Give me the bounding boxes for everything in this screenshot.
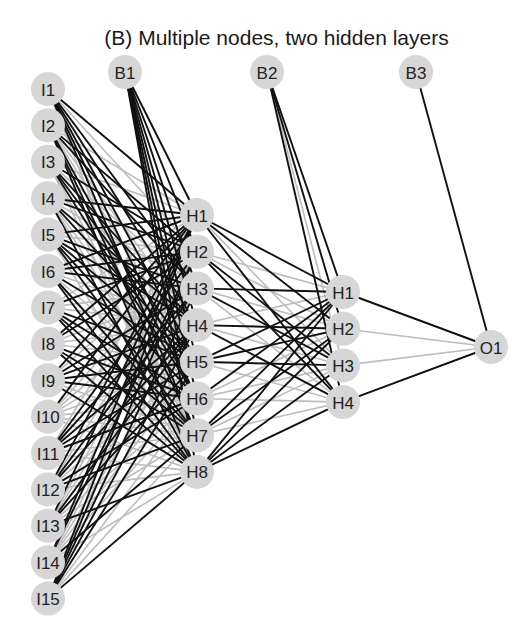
node-label: I12 <box>36 481 60 500</box>
bias-node-b2: B2 <box>250 55 284 89</box>
input-node-i9: I9 <box>31 363 65 397</box>
node-label: B1 <box>115 64 136 83</box>
node-label: I8 <box>41 335 55 354</box>
node-label: B2 <box>257 64 278 83</box>
input-node-i5: I5 <box>31 218 65 252</box>
connection-edges <box>48 72 491 599</box>
hidden1-node-h3: H3 <box>180 271 214 305</box>
edge-hidden1-hidden2 <box>197 329 343 472</box>
hidden1-node-h6: H6 <box>180 382 214 416</box>
node-label: I4 <box>41 190 55 209</box>
input-node-i7: I7 <box>31 290 65 324</box>
node-label: H1 <box>332 284 354 303</box>
node-label: I9 <box>41 372 55 391</box>
edge-hidden2-output <box>343 347 491 402</box>
hidden1-node-h5: H5 <box>180 345 214 379</box>
input-node-i2: I2 <box>31 108 65 142</box>
node-label: I6 <box>41 263 55 282</box>
node-label: H7 <box>186 427 208 446</box>
node-label: I14 <box>36 554 60 573</box>
input-node-i11: I11 <box>31 436 65 470</box>
edge-bias-b3 <box>416 72 491 347</box>
node-label: H1 <box>186 207 208 226</box>
node-label: I7 <box>41 299 55 318</box>
node-label: O1 <box>480 339 503 358</box>
node-label: H2 <box>186 243 208 262</box>
edge-hidden1-hidden2 <box>197 215 343 329</box>
input-node-i6: I6 <box>31 254 65 288</box>
neural-network-diagram: I1I2I3I4I5I6I7I8I9I10I11I12I13I14I15H1H2… <box>0 0 529 639</box>
edge-hidden1-hidden2 <box>197 288 343 292</box>
hidden2-node-h3: H3 <box>326 348 360 382</box>
node-label: I3 <box>41 153 55 172</box>
input-node-i3: I3 <box>31 145 65 179</box>
hidden1-node-h7: H7 <box>180 418 214 452</box>
network-nodes: I1I2I3I4I5I6I7I8I9I10I11I12I13I14I15H1H2… <box>31 55 508 616</box>
input-node-i14: I14 <box>31 545 65 579</box>
node-label: H5 <box>186 353 208 372</box>
node-label: H8 <box>186 463 208 482</box>
input-node-i8: I8 <box>31 327 65 361</box>
input-node-i10: I10 <box>31 400 65 434</box>
node-label: H2 <box>332 320 354 339</box>
input-node-i4: I4 <box>31 181 65 215</box>
node-label: H6 <box>186 390 208 409</box>
input-node-i15: I15 <box>31 582 65 616</box>
edge-hidden2-output <box>343 292 491 347</box>
edge-hidden1-hidden2 <box>197 292 343 435</box>
node-label: I2 <box>41 117 55 136</box>
bias-node-b3: B3 <box>399 55 433 89</box>
hidden2-node-h2: H2 <box>326 312 360 346</box>
hidden1-node-h1: H1 <box>180 198 214 232</box>
hidden1-node-h8: H8 <box>180 455 214 489</box>
hidden1-node-h2: H2 <box>180 235 214 269</box>
hidden2-node-h1: H1 <box>326 275 360 309</box>
node-label: I10 <box>36 408 60 427</box>
hidden2-node-h4: H4 <box>326 385 360 419</box>
input-node-i1: I1 <box>31 72 65 106</box>
node-label: H4 <box>332 394 354 413</box>
node-label: H3 <box>186 280 208 299</box>
hidden1-node-h4: H4 <box>180 308 214 342</box>
node-label: I11 <box>37 445 59 464</box>
node-label: I5 <box>41 226 55 245</box>
input-node-i12: I12 <box>31 472 65 506</box>
node-label: I13 <box>36 517 60 536</box>
bias-node-b1: B1 <box>108 55 142 89</box>
input-node-i13: I13 <box>31 509 65 543</box>
node-label: I15 <box>36 590 60 609</box>
node-label: H3 <box>332 357 354 376</box>
node-label: H4 <box>186 317 208 336</box>
node-label: B3 <box>406 64 427 83</box>
output-node-o1: O1 <box>474 330 508 364</box>
node-label: I1 <box>41 81 55 100</box>
